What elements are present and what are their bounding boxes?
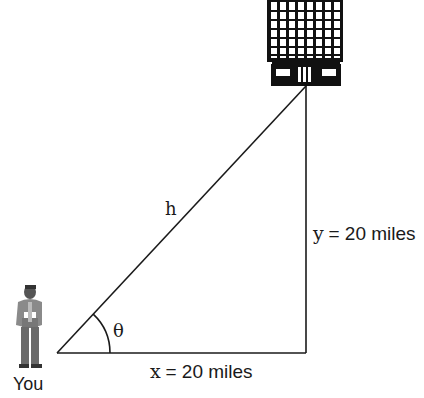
standing-man-icon: [16, 285, 42, 368]
person-label: You: [13, 374, 43, 395]
skyscraper-icon: [267, 0, 343, 86]
y-variable: y: [313, 222, 324, 244]
right-triangle: [57, 86, 306, 353]
hypotenuse-h: [57, 86, 306, 353]
x-variable: x: [150, 360, 161, 382]
angle-theta-label: θ: [113, 320, 124, 341]
vertical-side-label: y = 20 miles: [313, 222, 416, 245]
angle-arc: [93, 314, 110, 353]
horizontal-side-label: x = 20 miles: [150, 360, 253, 383]
diagram-canvas: [0, 0, 424, 398]
y-value: = 20 miles: [328, 223, 415, 244]
x-value: = 20 miles: [165, 361, 252, 382]
hypotenuse-label: h: [165, 198, 177, 219]
